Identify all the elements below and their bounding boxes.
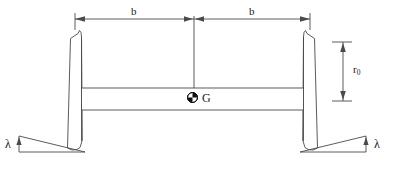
label-centre-of-gravity: G [202,92,211,104]
centre-of-gravity-marker [188,93,198,103]
right-wheel [303,31,318,151]
arrowhead-right-outer [300,16,310,22]
diagram-canvas [0,0,394,171]
left-angle-arrowhead [16,137,21,145]
label-r0-subscript: 0 [357,68,361,77]
label-b-left: b [131,6,137,17]
wheelset-diagram: b b G r0 λ λ [0,0,394,171]
label-lambda-left: λ [5,138,11,150]
arrowhead-centre-left [184,16,193,22]
left-wheel [68,31,83,151]
arrowhead-r0-down [340,91,346,100]
label-lambda-right: λ [374,138,380,150]
label-b-right: b [249,6,255,17]
right-angle-arrowhead [363,137,368,145]
arrowhead-left-outer [75,16,85,22]
arrowhead-centre-right [195,16,204,22]
arrowhead-r0-up [340,43,346,52]
label-rolling-radius: r0 [353,64,360,75]
